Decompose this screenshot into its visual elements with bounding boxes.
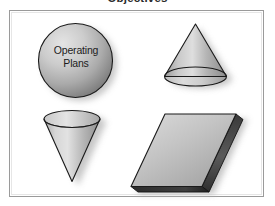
- sphere-label: Operating Plans: [40, 44, 112, 69]
- sphere-label-line1: Operating: [40, 44, 112, 57]
- slab-front-face: [131, 187, 209, 193]
- sphere-label-line2: Plans: [40, 57, 112, 70]
- figure-title: Objectives: [0, 0, 275, 4]
